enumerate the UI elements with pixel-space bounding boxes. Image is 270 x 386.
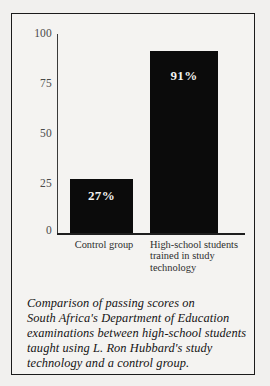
y-tick-label: 50 (14, 128, 52, 140)
bar-study-technology: 91% (150, 51, 218, 233)
caption-line: taught using L. Ron Hubbard's study (27, 341, 247, 356)
caption-line: South Africa's Department of Education (27, 311, 247, 326)
figure-root: 100 75 50 25 0 27% 91% Control group Hig… (0, 0, 270, 386)
caption-line: examinations between high-school student… (27, 326, 247, 341)
bar-value-label-study-technology: 91% (150, 69, 218, 82)
category-label-line: High-school students (150, 239, 252, 250)
category-label-line: Control group (64, 239, 144, 250)
bar-control-group: 27% (70, 179, 133, 233)
caption-line: technology and a control group. (27, 356, 247, 371)
y-axis-line (57, 34, 58, 234)
y-tick-label: 100 (14, 28, 52, 40)
x-axis-line (57, 233, 245, 235)
figure-caption: Comparison of passing scores on South Af… (27, 296, 247, 371)
category-label-line: technology (150, 262, 252, 273)
y-tick-label: 75 (14, 78, 52, 90)
category-label-line: trained in study (150, 250, 252, 261)
bar-chart: 100 75 50 25 0 27% 91% Control group Hig… (0, 0, 270, 300)
category-label-control-group: Control group (64, 239, 144, 250)
caption-line: Comparison of passing scores on (27, 296, 247, 311)
category-label-study-technology: High-school students trained in study te… (150, 239, 252, 273)
bar-value-label-control-group: 27% (70, 189, 133, 202)
y-tick-label: 25 (14, 178, 52, 190)
y-tick-label: 0 (14, 225, 52, 237)
